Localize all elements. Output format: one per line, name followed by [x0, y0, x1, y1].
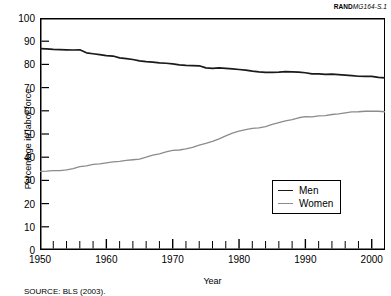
legend-item-women: Women	[278, 197, 333, 210]
x-axis-title: Year	[40, 276, 385, 286]
series-line-men	[40, 49, 385, 78]
x-tick-label: 1990	[294, 254, 316, 265]
x-tick-label: 1950	[29, 254, 51, 265]
y-tick-label: 40	[24, 152, 35, 163]
data-series-lines	[40, 49, 385, 172]
y-tick-label: 30	[24, 175, 35, 186]
x-tick-label: 1980	[228, 254, 250, 265]
series-line-women	[40, 111, 385, 171]
x-axis-ticks	[40, 239, 385, 249]
y-tick-label: 10	[24, 221, 35, 232]
rand-document-id: RANDMG164-S.1	[334, 2, 387, 11]
legend-swatch-men	[278, 190, 293, 191]
y-tick-label: 60	[24, 105, 35, 116]
y-tick-label: 20	[24, 198, 35, 209]
y-axis-ticks	[42, 41, 50, 227]
x-tick-label: 2000	[361, 254, 383, 265]
legend-label-men: Men	[299, 185, 318, 196]
rand-wordmark: RAND	[334, 3, 353, 10]
y-tick-label: 100	[18, 13, 35, 24]
source-note: SOURCE: BLS (2003).	[24, 287, 105, 296]
y-tick-label: 70	[24, 82, 35, 93]
legend-swatch-women	[278, 203, 293, 204]
plot-area: 0102030405060708090100 19501960197019801…	[40, 18, 385, 250]
legend-label-women: Women	[299, 198, 333, 209]
x-tick-label: 1970	[162, 254, 184, 265]
rand-report-number: MG164-S.1	[353, 3, 387, 10]
y-tick-label: 50	[24, 129, 35, 140]
chart-legend: MenWomen	[272, 180, 341, 214]
y-tick-label: 80	[24, 59, 35, 70]
x-tick-label: 1960	[95, 254, 117, 265]
legend-item-men: Men	[278, 184, 333, 197]
y-tick-label: 90	[24, 36, 35, 47]
chart-canvas	[40, 18, 385, 250]
